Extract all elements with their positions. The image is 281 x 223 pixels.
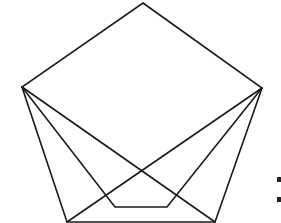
edge-glyph-top: [277, 177, 281, 182]
edge-glyph-bottom: [277, 197, 281, 202]
pentagon-diagram: [0, 0, 281, 223]
diagonal-right-to-bottom-left: [67, 88, 262, 222]
diagonal-left-to-bottom-right: [22, 87, 215, 222]
